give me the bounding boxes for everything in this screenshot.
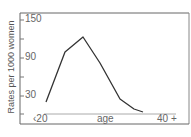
y-tick-label-30: 30 <box>25 89 36 100</box>
y-ticks <box>20 20 24 114</box>
x-tick-label-min: ‹20 <box>33 113 47 124</box>
line-chart: Rates per 1000 women 150 90 30 ‹20 age 4… <box>0 0 191 137</box>
x-axis-label: age <box>97 113 114 124</box>
y-axis-label: Rates per 1000 women <box>6 12 16 122</box>
series-line <box>46 37 143 112</box>
y-tick-label-90: 90 <box>25 51 36 62</box>
x-tick-label-max: 40 + <box>157 113 177 124</box>
y-tick-label-150: 150 <box>25 13 42 24</box>
